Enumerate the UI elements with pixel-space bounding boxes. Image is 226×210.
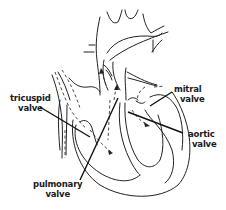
leader-lines (40, 92, 183, 180)
pulmonary-valve-label: pulmonary valve (33, 179, 82, 199)
aortic-leader (128, 112, 183, 133)
pulmonary-leader (80, 98, 118, 180)
heart-chambers (52, 72, 190, 196)
blood-flow-arrows (55, 68, 165, 158)
aortic-valve-label: aortic valve (188, 129, 217, 149)
tricuspid-valve-label: tricuspid valve (10, 93, 51, 113)
mitral-valve-label: mitral valve (174, 84, 205, 104)
mitral-leader (150, 92, 172, 106)
